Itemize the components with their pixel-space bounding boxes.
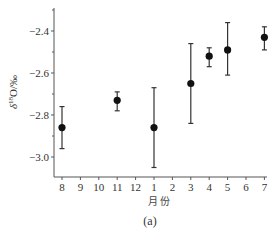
y-axis-label: δ18O/‰ xyxy=(7,75,19,109)
data-point-month-4 xyxy=(206,48,213,67)
marker-dot xyxy=(150,124,157,131)
marker-dot xyxy=(58,124,65,131)
x-tick-label: 12 xyxy=(130,181,141,193)
x-tick-label: 1 xyxy=(151,181,157,193)
x-tick-label: 6 xyxy=(243,181,249,193)
y-tick-label: −2.4 xyxy=(29,25,49,37)
y-tick-label: −3.0 xyxy=(29,151,49,163)
x-tick-label: 7 xyxy=(262,181,268,193)
x-tick-label: 4 xyxy=(206,181,212,193)
figure-caption: (a) xyxy=(143,214,156,228)
data-point-month-5 xyxy=(224,23,231,76)
x-tick-label: 3 xyxy=(188,181,194,193)
data-point-month-8 xyxy=(58,107,65,149)
data-point-month-7 xyxy=(261,27,268,50)
x-tick-label: 11 xyxy=(112,181,123,193)
svg-text:δ18O/‰: δ18O/‰ xyxy=(7,75,19,109)
marker-dot xyxy=(224,46,231,53)
data-point-month-3 xyxy=(187,44,194,124)
y-tick-label: −2.8 xyxy=(29,109,49,121)
x-tick-label: 9 xyxy=(78,181,84,193)
y-label-rest: O/‰ xyxy=(7,75,19,97)
marker-dot xyxy=(187,80,194,87)
x-tick-label: 5 xyxy=(225,181,231,193)
marker-dot xyxy=(206,53,213,60)
x-tick-label: 10 xyxy=(93,181,105,193)
marker-dot xyxy=(261,34,268,41)
x-axis-ticks: 891011121234567 xyxy=(59,177,267,193)
x-axis-label: 月份 xyxy=(148,196,172,207)
x-tick-label: 2 xyxy=(170,181,176,193)
marker-dot xyxy=(114,97,121,104)
y-axis-ticks: −2.4−2.6−2.8−3.0 xyxy=(29,10,54,163)
axes xyxy=(54,8,267,177)
y-tick-label: −2.6 xyxy=(29,67,49,79)
data-point-month-1 xyxy=(150,88,157,168)
data-points xyxy=(58,23,268,168)
x-tick-label: 8 xyxy=(59,181,65,193)
delta18o-monthly-chart: −2.4−2.6−2.8−3.0 891011121234567 δ18O/‰ … xyxy=(0,0,272,233)
data-point-month-11 xyxy=(114,92,121,111)
